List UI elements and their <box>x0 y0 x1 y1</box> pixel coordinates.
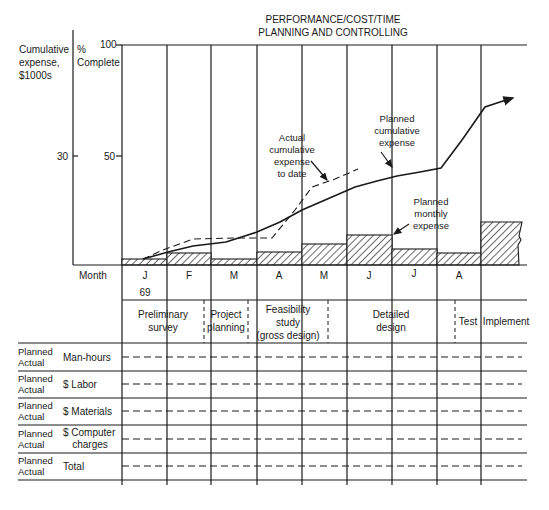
month-row-label: Month <box>79 270 107 281</box>
annotation-actual-1: Actual <box>279 132 305 143</box>
table-row-computer-charges: Planned Actual $ Computer charges <box>18 427 116 450</box>
annotation-planned-cum-1: Planned <box>380 113 415 124</box>
row-label: Man-hours <box>63 352 111 363</box>
y-axis-label-line-2: expense, <box>19 57 60 68</box>
annotation-actual-2: cumulative <box>269 144 314 155</box>
bar-apr <box>257 252 302 265</box>
row-label-line-2: charges <box>72 439 108 450</box>
pct-planning-diagram: PERFORMANCE/COST/TIME PLANNING AND CONTR… <box>0 0 549 510</box>
month-label: J <box>412 268 417 279</box>
annotation-actual-4: to date <box>277 168 306 179</box>
month-label: F <box>186 270 192 281</box>
row-status-actual: Actual <box>18 466 44 477</box>
planned-cumulative-line <box>143 98 513 259</box>
row-label: $ Labor <box>63 379 98 390</box>
row-status-actual: Actual <box>18 411 44 422</box>
month-label: M <box>320 270 328 281</box>
bar-implement <box>481 222 522 265</box>
table-row-labor: Planned Actual $ Labor <box>18 373 98 395</box>
phase-labels: Preliminary survey Project planning Feas… <box>138 304 530 341</box>
phase-implement: Implement <box>483 316 530 327</box>
phase-detailed-design-1: Detailed <box>373 309 410 320</box>
bar-jun <box>347 235 392 265</box>
row-label: Total <box>63 461 84 472</box>
month-label: A <box>276 270 283 281</box>
phase-project-planning-1: Project <box>210 309 241 320</box>
phase-feasibility-2: study <box>276 317 300 328</box>
y-axis-label-line-3: $1000s <box>19 70 52 81</box>
title-line-2: PLANNING AND CONTROLLING <box>258 27 408 38</box>
arrow-planned-cumulative <box>381 152 392 167</box>
pct-label-line-2: Complete <box>77 57 120 68</box>
tick-30: 30 <box>57 151 69 162</box>
bar-mar <box>211 259 257 265</box>
table-row-man-hours: Planned Actual Man-hours <box>18 346 111 368</box>
pct-label-line-1: % <box>77 44 86 55</box>
bar-jul <box>392 249 437 265</box>
tick-100: 100 <box>100 39 117 50</box>
y-axis-label-line-1: Cumulative <box>19 44 69 55</box>
bar-jan <box>122 259 167 265</box>
row-label: $ Computer <box>63 427 116 438</box>
title-line-1: PERFORMANCE/COST/TIME <box>265 14 400 25</box>
planned-monthly-expense-bars <box>122 222 522 265</box>
row-status-planned: Planned <box>18 346 53 357</box>
month-label: J <box>143 270 148 281</box>
row-status-actual: Actual <box>18 357 44 368</box>
annotation-planned-cum-2: cumulative <box>374 125 419 136</box>
month-label: J <box>367 270 372 281</box>
phase-feasibility-3: (gross design) <box>256 330 319 341</box>
phase-test: Test <box>459 316 478 327</box>
row-status-planned: Planned <box>18 400 53 411</box>
row-label: $ Materials <box>63 406 112 417</box>
arrow-planned-monthly <box>394 224 409 234</box>
phase-feasibility-1: Feasibility <box>266 304 310 315</box>
bar-may <box>302 244 347 265</box>
annotation-planned-monthly-1: Planned <box>414 196 449 207</box>
phase-detailed-design-2: design <box>376 322 405 333</box>
row-status-actual: Actual <box>18 439 44 450</box>
row-status-actual: Actual <box>18 384 44 395</box>
table-row-total: Planned Actual Total <box>18 455 84 477</box>
tick-50: 50 <box>104 151 116 162</box>
arrow-actual <box>311 161 327 180</box>
annotation-planned-monthly-2: monthly <box>414 208 448 219</box>
month-label: A <box>456 270 463 281</box>
bar-aug <box>437 253 481 265</box>
row-status-planned: Planned <box>18 455 53 466</box>
phase-project-planning-2: planning <box>207 322 245 333</box>
planned-actual-dividers <box>122 357 522 466</box>
table-row-materials: Planned Actual $ Materials <box>18 400 112 422</box>
annotation-actual-3: expense <box>274 156 310 167</box>
annotation-planned-monthly-3: expense <box>413 220 449 231</box>
month-label: M <box>230 270 238 281</box>
phase-preliminary-survey-2: survey <box>148 322 177 333</box>
year-label: 69 <box>139 287 151 298</box>
bar-feb <box>167 253 211 265</box>
row-status-planned: Planned <box>18 373 53 384</box>
phase-preliminary-survey-1: Preliminary <box>138 309 188 320</box>
annotation-planned-cum-3: expense <box>379 137 415 148</box>
row-status-planned: Planned <box>18 428 53 439</box>
